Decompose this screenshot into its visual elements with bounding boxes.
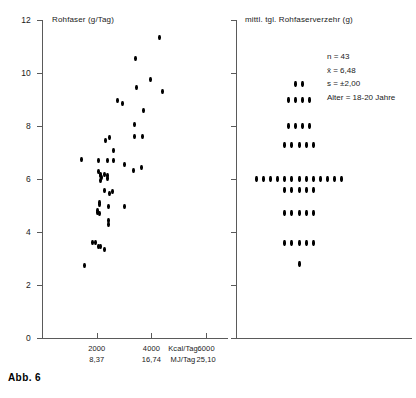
left-x-axis	[42, 338, 228, 339]
scatter-point	[158, 35, 161, 40]
scatter-point	[97, 158, 100, 163]
scatter-point	[123, 162, 126, 167]
right-plot-title: mittl. tgl. Rohfaserverzehr (g)	[245, 15, 353, 24]
scatter-point	[111, 189, 114, 194]
scatter-point	[99, 244, 102, 249]
histogram-dot	[294, 81, 297, 87]
right-y-tick	[231, 179, 236, 180]
left-x-tick-label-mj: 8,37	[77, 355, 117, 364]
right-y-tick	[231, 232, 236, 233]
stat-sd: s = ±2,00	[327, 77, 395, 91]
scatter-point	[108, 135, 111, 140]
histogram-dot	[308, 97, 311, 103]
scatter-point	[112, 148, 115, 153]
scatter-point	[135, 85, 138, 90]
scatter-point	[80, 157, 83, 162]
left-y-tick	[37, 73, 42, 74]
histogram-dot	[290, 142, 293, 148]
right-y-axis	[236, 20, 237, 339]
stat-n: n = 43	[327, 50, 395, 64]
histogram-dot	[305, 142, 308, 148]
stats-block: n = 43 x̄ = 6,48 s = ±2,00 Alter = 18-20…	[327, 50, 395, 104]
scatter-point	[161, 89, 164, 94]
histogram-dot	[326, 176, 329, 182]
left-x-tick-label-kcal: 2000	[77, 344, 117, 353]
histogram-dot	[283, 187, 286, 193]
scatter-point	[121, 101, 124, 106]
histogram-dot	[262, 176, 265, 182]
stat-mean: x̄ = 6,48	[327, 64, 395, 78]
scatter-point	[123, 204, 126, 209]
left-y-tick-label: 6	[9, 174, 31, 184]
right-x-axis	[236, 338, 412, 339]
histogram-dot	[312, 142, 315, 148]
scatter-point	[133, 122, 136, 127]
right-y-tick	[231, 285, 236, 286]
scatter-point	[140, 165, 143, 170]
scatter-point	[132, 168, 135, 173]
left-y-tick	[37, 285, 42, 286]
left-x-tick	[97, 333, 98, 338]
left-y-tick-label: 12	[9, 15, 31, 25]
left-plot-title: Rohfaser (g/Tag)	[52, 15, 114, 24]
histogram-dot	[287, 123, 290, 129]
histogram-dot	[269, 176, 272, 182]
histogram-dot	[298, 187, 301, 193]
scatter-point	[142, 108, 145, 113]
scatter-point	[106, 158, 109, 163]
histogram-dot	[294, 123, 297, 129]
scatter-point	[112, 158, 115, 163]
histogram-dot	[301, 123, 304, 129]
histogram-dot	[312, 187, 315, 193]
histogram-dot	[290, 187, 293, 193]
left-y-axis	[42, 20, 43, 339]
left-y-tick-label: 0	[9, 333, 31, 343]
scatter-point	[103, 247, 106, 252]
scatter-point	[103, 172, 106, 177]
histogram-dot	[283, 240, 286, 246]
left-y-tick-label: 2	[9, 280, 31, 290]
scatter-point	[107, 204, 110, 209]
histogram-dot	[283, 142, 286, 148]
scatter-point	[116, 98, 119, 103]
scatter-point	[98, 211, 101, 216]
histogram-dot	[312, 210, 315, 216]
histogram-dot	[290, 210, 293, 216]
scatter-point	[83, 263, 86, 268]
histogram-dot	[255, 176, 258, 182]
histogram-dot	[301, 97, 304, 103]
histogram-dot	[298, 176, 301, 182]
histogram-dot	[294, 97, 297, 103]
histogram-dot	[290, 176, 293, 182]
left-x-tick	[206, 333, 207, 338]
scatter-point	[133, 134, 136, 139]
histogram-dot	[340, 176, 343, 182]
histogram-dot	[301, 81, 304, 87]
left-y-tick-label: 10	[9, 68, 31, 78]
histogram-dot	[305, 176, 308, 182]
right-y-tick	[231, 73, 236, 74]
histogram-dot	[319, 176, 322, 182]
x-axis-unit-kcal: Kcal/Tag	[158, 344, 208, 353]
figure-caption: Abb. 6	[8, 372, 41, 383]
histogram-dot	[298, 142, 301, 148]
histogram-dot	[312, 176, 315, 182]
histogram-dot	[298, 240, 301, 246]
histogram-dot	[283, 176, 286, 182]
x-axis-unit-mj: MJ/Tag	[158, 355, 208, 364]
left-y-tick	[37, 126, 42, 127]
right-y-tick	[231, 126, 236, 127]
right-y-tick	[231, 20, 236, 21]
histogram-dot	[333, 176, 336, 182]
left-y-tick	[37, 179, 42, 180]
scatter-point	[134, 56, 137, 61]
left-y-tick-label: 4	[9, 227, 31, 237]
histogram-dot	[290, 240, 293, 246]
histogram-dot	[298, 261, 301, 267]
histogram-dot	[305, 187, 308, 193]
histogram-dot	[308, 123, 311, 129]
scatter-point	[149, 77, 152, 82]
histogram-dot	[298, 210, 301, 216]
scatter-point	[104, 138, 107, 143]
histogram-dot	[276, 176, 279, 182]
